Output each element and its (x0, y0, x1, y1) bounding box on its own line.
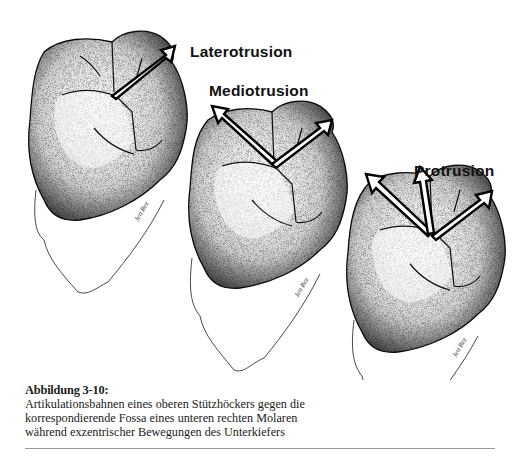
caption-line-1: Artikulationsbahnen eines oberen Stützhö… (25, 397, 425, 411)
tooth-1: Jen Rez (29, 31, 188, 293)
artist-signature-3: Jen Rez (451, 336, 469, 359)
caption-title: Abbildung 3-10: (25, 383, 425, 397)
tooth-2: Jen Rez (189, 101, 348, 371)
mediotrusion-label: Mediotrusion (209, 82, 309, 100)
molar-illustration: Jen Rez Jen Rez (0, 0, 532, 380)
caption-line-3: während exzentrischer Bewegungen des Unt… (25, 425, 425, 439)
laterotrusion-label: Laterotrusion (190, 43, 293, 61)
caption-divider (25, 448, 495, 449)
protrusion-label: Protrusion (414, 162, 494, 180)
figure-caption: Abbildung 3-10: Artikulationsbahnen eine… (25, 383, 425, 439)
artist-signature-1: Jen Rez (133, 200, 151, 223)
caption-line-2: korrespondierende Fossa eines unteren re… (25, 411, 425, 425)
